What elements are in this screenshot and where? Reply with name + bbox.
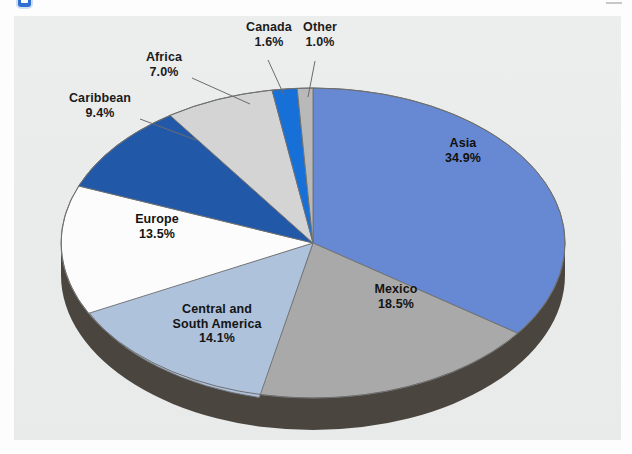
- label-europe: Europe 13.5%: [116, 212, 198, 241]
- label-mexico-pct: 18.5%: [352, 297, 440, 312]
- label-other-name: Other: [303, 20, 337, 34]
- label-caribbean: Caribbean 9.4%: [52, 91, 148, 120]
- label-other: Other 1.0%: [282, 20, 358, 49]
- label-asia-pct: 34.9%: [428, 151, 498, 166]
- label-asia: Asia 34.9%: [428, 136, 498, 165]
- label-asia-name: Asia: [450, 136, 477, 150]
- label-europe-name: Europe: [135, 212, 179, 226]
- label-europe-pct: 13.5%: [116, 227, 198, 242]
- label-csa-name-line1: Central and: [182, 302, 252, 316]
- label-mexico: Mexico 18.5%: [352, 282, 440, 311]
- label-csa-pct: 14.1%: [142, 331, 292, 346]
- label-africa: Africa 7.0%: [122, 50, 206, 79]
- label-other-pct: 1.0%: [282, 35, 358, 50]
- label-caribbean-pct: 9.4%: [52, 106, 148, 121]
- label-mexico-name: Mexico: [375, 282, 418, 296]
- label-africa-name: Africa: [146, 50, 182, 64]
- pie-chart-svg: [0, 0, 632, 454]
- chart-stage: Canada 1.6% Other 1.0% Africa 7.0% Carib…: [0, 0, 632, 454]
- label-csa-name-line2: South America: [142, 317, 292, 332]
- label-africa-pct: 7.0%: [122, 65, 206, 80]
- label-central-south-america: Central and South America 14.1%: [142, 302, 292, 346]
- pie-slices: [61, 88, 565, 398]
- label-caribbean-name: Caribbean: [69, 91, 131, 105]
